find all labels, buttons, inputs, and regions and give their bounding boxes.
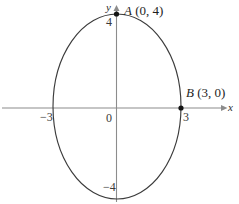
tick-label-x-neg3: −3: [40, 111, 53, 123]
y-axis-label: y: [106, 2, 111, 13]
x-axis-arrowhead: [221, 105, 228, 111]
tick-label-y-neg4: −4: [103, 181, 116, 193]
tick-label-y-4: 4: [106, 16, 112, 28]
tick-label-x-3: 3: [183, 111, 189, 123]
point-b-name: B: [186, 85, 194, 100]
origin-label: 0: [106, 112, 112, 124]
ellipse-graph-figure: y x A (0, 4) B (3, 0) 4 −4 −3 3 0: [0, 0, 239, 204]
x-axis-label: x: [228, 102, 233, 113]
point-a-name: A: [124, 3, 132, 18]
point-b-label: B (3, 0): [186, 86, 225, 99]
point-a-marker: [114, 11, 119, 16]
point-a-coords: (0, 4): [132, 3, 163, 18]
point-a-label: A (0, 4): [124, 4, 163, 17]
y-axis-arrowhead: [114, 5, 120, 11]
point-b-coords: (3, 0): [194, 85, 225, 100]
graph-canvas: [0, 0, 239, 204]
